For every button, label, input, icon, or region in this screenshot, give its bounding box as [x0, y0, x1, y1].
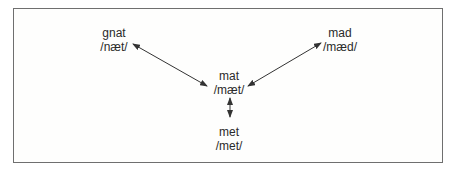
- node-word: mat: [199, 69, 259, 83]
- node-word: mad: [310, 26, 370, 40]
- node-ipa: /met/: [199, 139, 259, 153]
- node-word: met: [199, 125, 259, 139]
- node-gnat: gnat /næt/: [84, 26, 144, 54]
- node-ipa: /næt/: [84, 40, 144, 54]
- node-mat: mat /mæt/: [199, 69, 259, 97]
- node-ipa: /mæt/: [199, 83, 259, 97]
- node-met: met /met/: [199, 125, 259, 153]
- node-mad: mad /mæd/: [310, 26, 370, 54]
- node-word: gnat: [84, 26, 144, 40]
- node-ipa: /mæd/: [310, 40, 370, 54]
